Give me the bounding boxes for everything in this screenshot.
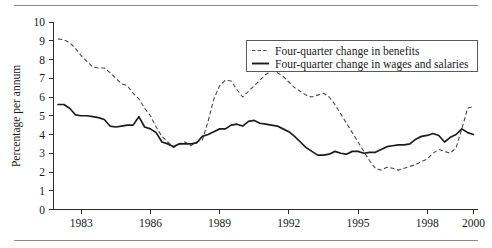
series-line-wages-and-salaries <box>58 105 473 156</box>
x-tick-label-1998: 1998 <box>416 217 439 229</box>
line-chart: Percentage per annum 0 1 2 3 4 5 6 7 8 9 <box>0 0 492 248</box>
x-axis-tick-labels: 1983198619891992199519982000 <box>70 217 485 229</box>
y-tick-label-10: 10 <box>34 16 46 28</box>
y-tick-label-6: 6 <box>39 91 45 103</box>
x-tick-label-1983: 1983 <box>70 217 93 229</box>
y-tick-label-9: 9 <box>39 35 45 47</box>
x-tick-label-1986: 1986 <box>139 217 162 229</box>
legend-label-wages: Four-quarter change in wages and salarie… <box>275 58 469 71</box>
y-tick-label-1: 1 <box>39 185 45 197</box>
x-tick-label-1995: 1995 <box>347 217 370 229</box>
y-tick-label-4: 4 <box>39 129 45 141</box>
y-tick-label-3: 3 <box>39 147 45 159</box>
figure-container: Percentage per annum 0 1 2 3 4 5 6 7 8 9 <box>0 0 492 248</box>
x-tick-label-1989: 1989 <box>208 217 231 229</box>
y-tick-label-8: 8 <box>39 54 45 66</box>
y-axis-label: Percentage per annum <box>10 65 23 167</box>
y-tick-label-2: 2 <box>39 166 45 178</box>
y-axis-tick-labels: 0 1 2 3 4 5 6 7 8 9 10 <box>34 16 46 216</box>
legend: Four-quarter change in benefits Four-qua… <box>247 41 478 72</box>
y-tick-label-0: 0 <box>39 204 45 216</box>
legend-label-benefits: Four-quarter change in benefits <box>275 45 420 58</box>
x-tick-label-1992: 1992 <box>277 217 300 229</box>
y-tick-label-7: 7 <box>39 72 45 84</box>
x-tick-label-2000: 2000 <box>462 217 485 229</box>
y-tick-label-5: 5 <box>39 110 45 122</box>
y-axis-ticks <box>49 22 54 210</box>
x-axis-ticks <box>81 210 473 215</box>
